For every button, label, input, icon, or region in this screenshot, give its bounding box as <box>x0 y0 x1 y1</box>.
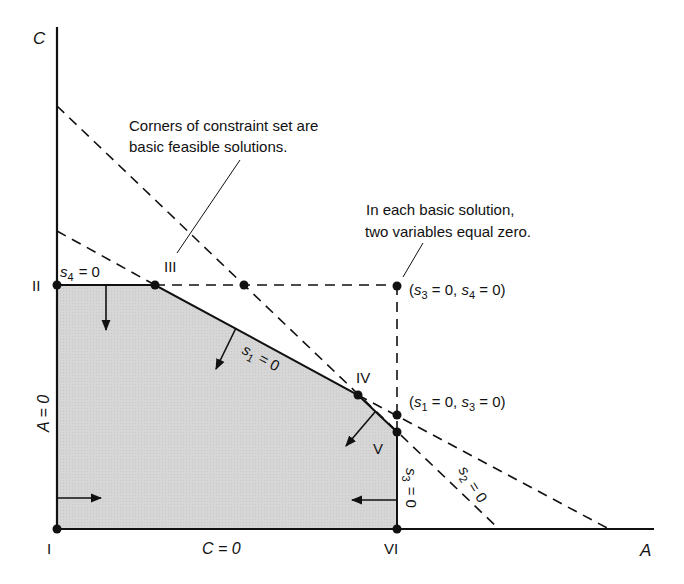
vertex-IV <box>354 391 363 400</box>
annotation-corners-line2: basic feasible solutions. <box>129 138 287 155</box>
vertex-V-label: V <box>373 440 383 457</box>
point-s1-s3 <box>393 411 402 420</box>
vertex-IV-label: IV <box>356 369 370 386</box>
vertex-I <box>53 525 62 534</box>
leader-line-corners <box>177 160 240 253</box>
y-axis-equation: A = 0 <box>35 395 52 433</box>
feasible-region <box>57 285 397 529</box>
leader-line-basic <box>403 243 423 277</box>
vertex-III <box>151 281 160 290</box>
intersection-point <box>240 281 249 290</box>
x-axis-label: A <box>639 541 651 560</box>
annotation-basic-line1: In each basic solution, <box>366 201 514 218</box>
x-axis-equation: C = 0 <box>202 540 241 557</box>
constraint-diagram: C A C = 0 A = 0 I II III IV V VI s4= 0 s… <box>0 0 684 584</box>
vertex-II-label: II <box>32 277 40 294</box>
vertex-III-label: III <box>164 258 177 275</box>
vertex-II <box>53 281 62 290</box>
constraint-label-s3: s3= 0 <box>400 468 420 508</box>
point-label-s3-s4: (s3 = 0, s4 = 0) <box>409 281 505 301</box>
point-label-s1-s3: (s1 = 0, s3 = 0) <box>409 393 505 413</box>
vertex-I-label: I <box>47 540 51 557</box>
vertex-VI-label: VI <box>384 540 398 557</box>
vertex-V <box>393 428 402 437</box>
constraint-label-s2: s2= 0 <box>453 463 491 507</box>
annotation-basic-line2: two variables equal zero. <box>365 223 531 240</box>
constraint-label-s4: s4= 0 <box>60 263 100 283</box>
annotation-corners-line1: Corners of constraint set are <box>129 117 318 134</box>
point-s3-s4 <box>393 282 402 291</box>
vertex-VI <box>393 525 402 534</box>
y-axis-label: C <box>33 29 46 48</box>
